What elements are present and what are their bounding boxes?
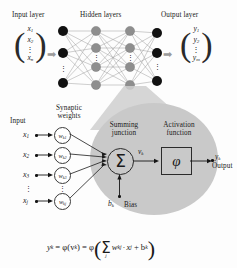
input-layer-label: Input layer <box>12 11 44 19</box>
neuron-input-label: Input <box>10 117 26 125</box>
activation-function-label: Activation function <box>156 121 202 137</box>
neuron-output-label: Output <box>212 162 233 170</box>
input-vector: ( x1 x2 ⋮ xn ) <box>14 25 47 65</box>
svg-text:⋮: ⋮ <box>127 54 134 62</box>
input-arrow-icon: ➡ <box>47 49 56 60</box>
neuron-input-ellipsis: ⋮ <box>25 185 32 193</box>
svg-text:⋮: ⋮ <box>93 54 100 62</box>
output-layer-label: Output layer <box>161 11 198 19</box>
paren-left-icon: ( <box>14 28 25 62</box>
bias-symbol: bk <box>108 199 114 208</box>
svg-text:⋮: ⋮ <box>154 63 161 71</box>
output-arrow-icon: ➡ <box>163 49 172 60</box>
bias-label: Bias <box>124 201 137 209</box>
neuron-input-symbol: xj <box>23 196 28 205</box>
equation-paren-left-icon: ( <box>94 236 101 262</box>
input-vector-item: xn <box>26 54 34 65</box>
neuron-output-symbol: yk <box>215 152 221 161</box>
figure-canvas: Input layer Hidden layers Output layer (… <box>0 0 237 268</box>
synaptic-weights-label: Synaptic weights <box>47 104 91 120</box>
neuron-weight-ellipsis: ⋮ <box>59 185 66 193</box>
bias-node-dot <box>118 195 121 198</box>
neuron-input-symbol: x1 <box>23 130 29 139</box>
paren-right-icon: ) <box>35 28 46 62</box>
neuron-input-symbol: x3 <box>23 170 29 179</box>
neuron-equation: yk = φ(vk ) = φ ( Σ j wkj · xj + bk ) <box>47 234 155 260</box>
input-connector-arrow-icon <box>37 151 54 159</box>
activation-function-box: φ <box>161 147 192 175</box>
network-graph: ⋮ ⋮ ⋮ ⋮ <box>56 23 164 93</box>
hidden-layers-label: Hidden layers <box>80 11 121 19</box>
induced-field-arrow-icon <box>133 157 161 165</box>
input-connector-arrow-icon <box>37 171 54 179</box>
svg-text:⋮: ⋮ <box>60 65 67 73</box>
input-connector-arrow-icon <box>37 131 54 139</box>
equation-paren-right-icon: ) <box>148 236 155 262</box>
paren-left-icon: ( <box>180 28 191 62</box>
output-vector: ( y1 y2 ⋮ ym ) <box>180 25 213 65</box>
paren-right-icon: ) <box>201 28 212 62</box>
output-vector-item: ym <box>192 54 200 65</box>
input-connector-arrow-icon <box>37 197 54 205</box>
neuron-input-symbol: x2 <box>23 150 29 159</box>
summing-junction-node: Σ <box>107 148 134 175</box>
induced-field-label: vk <box>138 147 144 156</box>
